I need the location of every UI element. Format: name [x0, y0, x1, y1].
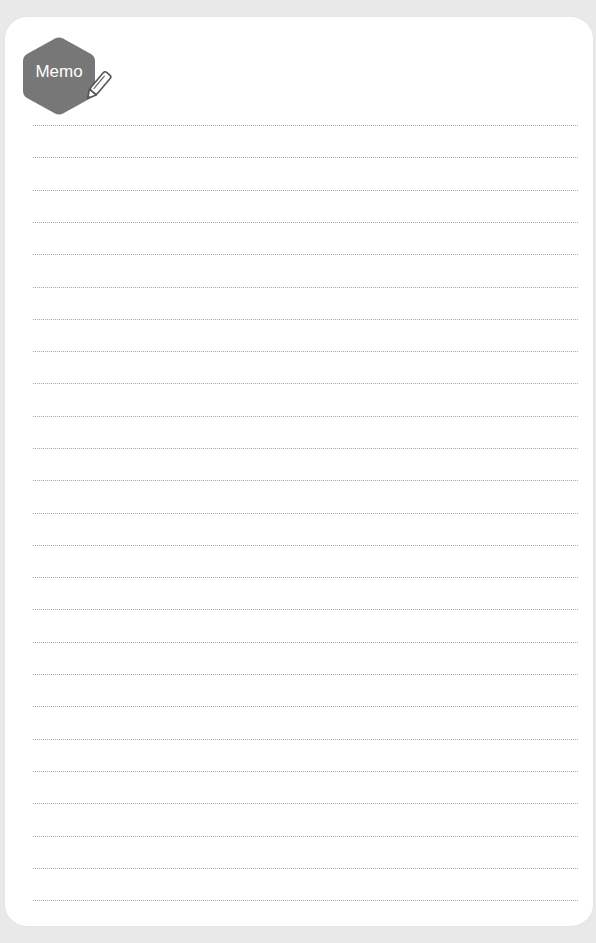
ruled-line — [33, 287, 578, 288]
ruled-line — [33, 125, 578, 126]
ruled-line — [33, 803, 578, 804]
ruled-line — [33, 448, 578, 449]
ruled-line — [33, 254, 578, 255]
ruled-line — [33, 868, 578, 869]
ruled-line — [33, 319, 578, 320]
ruled-line — [33, 771, 578, 772]
ruled-line — [33, 642, 578, 643]
ruled-line — [33, 351, 578, 352]
ruled-line — [33, 416, 578, 417]
ruled-line — [33, 222, 578, 223]
ruled-line — [33, 577, 578, 578]
ruled-line — [33, 480, 578, 481]
pencil-icon — [83, 69, 113, 103]
ruled-line — [33, 739, 578, 740]
ruled-line — [33, 545, 578, 546]
memo-sheet: Memo — [5, 17, 593, 926]
ruled-line — [33, 674, 578, 675]
ruled-line — [33, 190, 578, 191]
ruled-line — [33, 836, 578, 837]
ruled-line — [33, 900, 578, 901]
ruled-line — [33, 383, 578, 384]
ruled-line — [33, 706, 578, 707]
ruled-line — [33, 157, 578, 158]
ruled-line — [33, 513, 578, 514]
ruled-line — [33, 609, 578, 610]
